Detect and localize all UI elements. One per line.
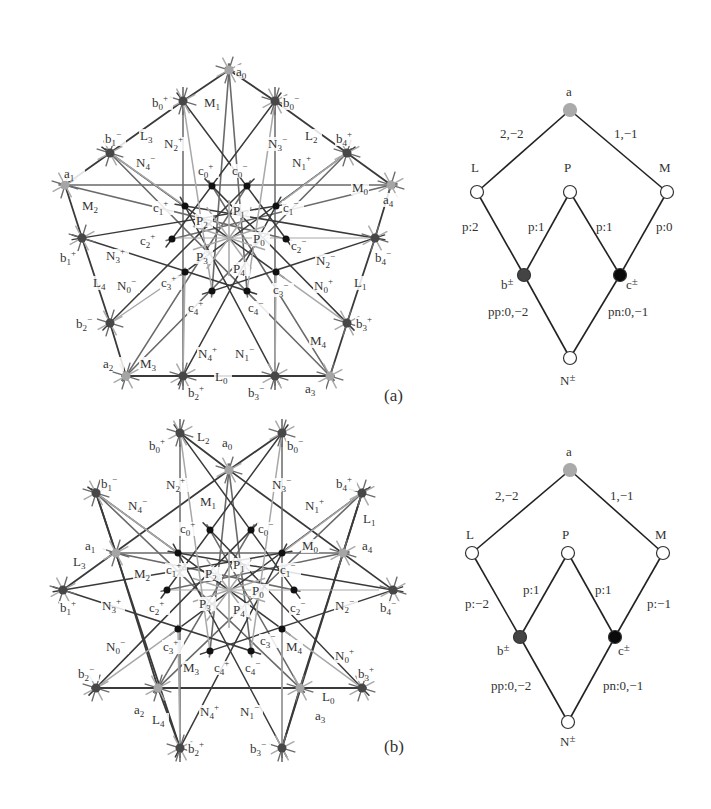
edge-label: 1,−1 — [610, 488, 634, 503]
node-c0m — [248, 527, 255, 534]
hasse-node-b — [518, 269, 531, 282]
edge-label: p:1 — [596, 219, 613, 234]
node-b3p — [343, 319, 352, 328]
node-b2p — [176, 744, 185, 753]
node-b1m — [92, 489, 101, 498]
node-a0 — [225, 66, 234, 75]
node-a4 — [387, 181, 396, 190]
edge-M-c — [615, 553, 663, 637]
node-b2m — [106, 319, 115, 328]
hasse-node-N — [564, 352, 577, 365]
hasse-label-P: P — [562, 527, 569, 542]
hasse-label-b: b± — [501, 275, 514, 292]
hasse-label-b: b± — [497, 641, 510, 658]
edge-label: pp:0,−2 — [488, 304, 528, 319]
hasse-node-P — [564, 186, 577, 199]
node-c4p — [209, 288, 216, 295]
edge-a-M — [570, 110, 667, 192]
edge-label: 2,−2 — [495, 488, 519, 503]
edge-label: p:1 — [595, 582, 612, 597]
hasse-diagram-a: aLPMb±c±N±2,−21,−1p:2p:1p:1p:0pp:0,−2pn:… — [462, 84, 674, 388]
node-c2m — [291, 587, 298, 594]
node-b1p — [59, 586, 68, 595]
figure-canvas: a0a1a4a2a3b0+b0−b1−b4+b1+b4−b2−b3+b2+b3−… — [0, 0, 711, 809]
edge-b-N — [524, 275, 570, 358]
hasse-label-c: c± — [618, 641, 630, 658]
hasse-label-P: P — [564, 160, 571, 175]
node-a2 — [122, 372, 131, 381]
hasse-node-N — [562, 716, 575, 729]
node-b2m — [92, 684, 101, 693]
node-c1p — [175, 550, 182, 557]
node-a4 — [339, 549, 348, 558]
node-b4m — [371, 234, 380, 243]
node-b0m — [278, 429, 287, 438]
node-b3m — [271, 372, 280, 381]
node-b0p — [176, 429, 185, 438]
hasse-label-M: M — [655, 527, 667, 542]
hasse-node-c — [609, 631, 622, 644]
node-a2 — [154, 684, 163, 693]
edge-label: p:2 — [462, 219, 479, 234]
node-a3 — [296, 684, 305, 693]
hasse-node-b — [514, 631, 527, 644]
node-c0m — [244, 183, 251, 190]
node-b0m — [271, 97, 280, 106]
star-diagram-b: a0a1a4a2a3b0+b0−b1−b4+b1+b4−b2−b3+b2+b3−… — [50, 419, 407, 762]
edge-label: p:0 — [656, 219, 673, 234]
node-c3p — [182, 269, 189, 276]
node-b3m — [278, 744, 287, 753]
node-c2p — [164, 587, 171, 594]
hasse-label-N: N± — [560, 371, 575, 388]
node-c0p — [207, 527, 214, 534]
edge-label: p:−2 — [465, 596, 489, 611]
panel-label-a: (a) — [384, 386, 403, 405]
node-a1 — [61, 181, 70, 190]
hasse-node-a — [564, 104, 577, 117]
node-b4p — [343, 149, 352, 158]
node-c4p — [207, 648, 214, 655]
edge-label: pn:0,−1 — [608, 304, 648, 319]
edge-label: pn:0,−1 — [603, 678, 643, 693]
node-c1m — [273, 203, 280, 210]
node-b1p — [78, 234, 87, 243]
node-b4p — [358, 489, 367, 498]
edge-label: pp:0,−2 — [491, 678, 531, 693]
node-b4m — [389, 586, 398, 595]
hasse-label-L: L — [466, 527, 474, 542]
node-c4m — [244, 288, 251, 295]
panel-label-b: (b) — [384, 737, 404, 756]
node-b0p — [179, 97, 188, 106]
edge-label: 2,−2 — [500, 126, 524, 141]
hasse-label-L: L — [471, 160, 479, 175]
hasse-label-c: c± — [626, 275, 638, 292]
node-c1p — [182, 203, 189, 210]
edge-L-b — [477, 192, 524, 275]
node-a3 — [326, 372, 335, 381]
hasse-label-N: N± — [560, 732, 575, 749]
edge-a-L — [472, 470, 570, 553]
node-a0 — [225, 466, 234, 475]
hasse-node-P — [562, 547, 575, 560]
node-c3m — [273, 269, 280, 276]
star-diagram-a: a0a1a4a2a3b0+b0−b1−b4+b1+b4−b2−b3+b2+b3−… — [52, 57, 405, 402]
node-a1 — [112, 549, 121, 558]
hasse-label-a: a — [566, 84, 572, 99]
edge-label: 1,−1 — [614, 126, 638, 141]
hasse-node-c — [614, 269, 627, 282]
node-c2p — [169, 236, 176, 243]
hasse-node-a — [564, 464, 577, 477]
hasse-label-a: a — [566, 444, 572, 459]
node-c4m — [248, 648, 255, 655]
edge-a-L — [477, 110, 570, 192]
node-c2m — [283, 236, 290, 243]
edge-label: p:1 — [528, 219, 545, 234]
nodes — [61, 66, 396, 381]
hasse-node-L — [466, 547, 479, 560]
hasse-label-M: M — [659, 160, 671, 175]
node-c3p — [175, 626, 182, 633]
hasse-diagram-b: aLPMb±c±N±2,−21,−1p:−2p:1p:1p:−1pp:0,−2p… — [465, 444, 671, 749]
hasse-node-M — [661, 186, 674, 199]
node-c1m — [279, 550, 286, 557]
node-b1m — [106, 149, 115, 158]
